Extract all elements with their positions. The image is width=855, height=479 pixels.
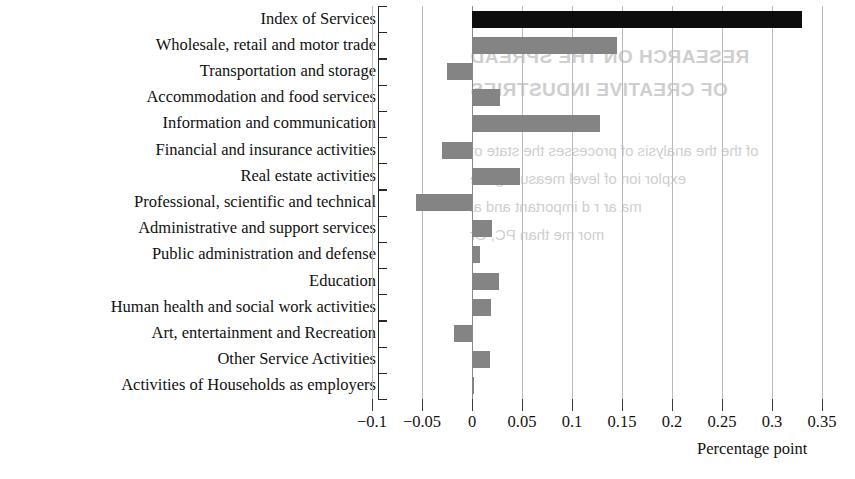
x-axis-tick xyxy=(822,399,823,411)
x-axis-tick xyxy=(672,399,673,411)
gridline xyxy=(572,6,573,399)
bar xyxy=(472,351,490,368)
bar xyxy=(416,194,472,211)
zero-gridline xyxy=(472,6,473,399)
category-label: Financial and insurance activities xyxy=(156,142,376,159)
category-tick xyxy=(378,399,387,400)
category-label: Professional, scientific and technical xyxy=(134,194,376,211)
x-axis-tick xyxy=(772,399,773,411)
bar xyxy=(454,325,472,342)
category-tick xyxy=(378,347,387,348)
category-tick xyxy=(378,163,387,164)
x-axis-tick-label: 0.35 xyxy=(782,414,855,431)
x-axis-tick xyxy=(522,399,523,411)
category-tick xyxy=(378,320,387,321)
x-axis-tick xyxy=(422,399,423,411)
bar xyxy=(472,377,474,394)
category-tick xyxy=(378,373,387,374)
bar xyxy=(472,273,499,290)
bar xyxy=(442,142,472,159)
category-tick xyxy=(378,189,387,190)
x-axis-tick xyxy=(572,399,573,411)
category-tick xyxy=(378,294,387,295)
category-label: Other Service Activities xyxy=(217,351,376,368)
gridline xyxy=(722,6,723,399)
bar xyxy=(472,89,500,106)
bar xyxy=(472,37,617,54)
category-label: Information and communication xyxy=(162,115,376,132)
gridline xyxy=(672,6,673,399)
category-label: Transportation and storage xyxy=(200,63,376,80)
category-label: Activities of Households as employers xyxy=(121,377,376,394)
bar xyxy=(472,115,600,132)
bar xyxy=(472,246,480,263)
gridline xyxy=(622,6,623,399)
category-label: Accommodation and food services xyxy=(146,89,376,106)
category-tick xyxy=(378,85,387,86)
category-tick xyxy=(378,242,387,243)
category-tick xyxy=(378,111,387,112)
gridline xyxy=(372,6,373,399)
category-label: Public administration and defense xyxy=(152,246,376,263)
category-tick xyxy=(378,58,387,59)
category-label: Education xyxy=(309,273,376,290)
bar xyxy=(472,220,492,237)
category-label: Index of Services xyxy=(261,11,376,28)
bar-chart: Index of ServicesWholesale, retail and m… xyxy=(0,0,855,479)
x-axis-tick xyxy=(472,399,473,411)
category-axis-line xyxy=(378,6,379,399)
bar xyxy=(472,11,802,28)
category-label: Art, entertainment and Recreation xyxy=(152,325,377,342)
plot-area xyxy=(390,6,853,399)
x-axis-tick xyxy=(622,399,623,411)
category-tick xyxy=(378,216,387,217)
category-label: Real estate activities xyxy=(240,168,376,185)
bar xyxy=(472,168,520,185)
category-tick xyxy=(378,6,387,7)
bar xyxy=(447,63,472,80)
category-label: Human health and social work activities xyxy=(111,299,376,316)
category-label: Administrative and support services xyxy=(138,220,376,237)
category-label: Wholesale, retail and motor trade xyxy=(156,37,376,54)
gridline xyxy=(772,6,773,399)
gridline xyxy=(522,6,523,399)
gridline xyxy=(822,6,823,399)
bar xyxy=(472,299,491,316)
x-axis-tick xyxy=(722,399,723,411)
x-axis-tick xyxy=(372,399,373,411)
category-tick xyxy=(378,268,387,269)
category-tick xyxy=(378,32,387,33)
x-axis-title: Percentage point xyxy=(697,441,807,458)
category-tick xyxy=(378,137,387,138)
